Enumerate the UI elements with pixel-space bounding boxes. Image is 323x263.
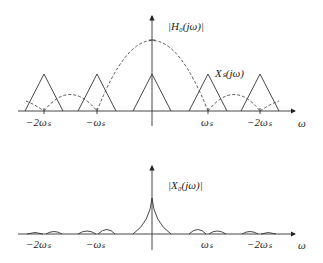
top-tick-2ws: −2ωₛ <box>247 117 272 128</box>
bottom-tick-negws: −ωₛ <box>86 239 105 250</box>
bottom-axis-label: ω <box>298 240 306 251</box>
top-plot <box>18 16 295 126</box>
xs-label: Xₛ(jω) <box>215 68 244 79</box>
bottom-tick-neg2ws: −2ωₛ <box>26 239 51 250</box>
x0-label: |X₀(jω)| <box>168 180 203 191</box>
h0-label: |H₀(jω)| <box>168 21 204 32</box>
bottom-tick-ws: ωₛ <box>201 239 213 250</box>
top-tick-negws: −ωₛ <box>86 117 105 128</box>
bottom-tick-2ws: −2ωₛ <box>247 239 272 250</box>
top-tick-ws: ωₛ <box>201 117 213 128</box>
spectrum-plots <box>0 0 323 263</box>
top-tick-neg2ws: −2ωₛ <box>26 117 51 128</box>
diagram: |H₀(jω)| Xₛ(jω) ω −2ωₛ −ωₛ ωₛ −2ωₛ |X₀(j… <box>0 0 323 263</box>
top-axis-label: ω <box>298 118 306 129</box>
